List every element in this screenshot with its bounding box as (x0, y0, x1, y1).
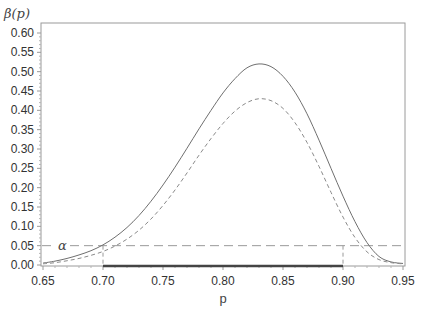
y-tick-label: 0.35 (11, 123, 35, 137)
y-axis: 0.000.050.100.150.200.250.300.350.400.45… (11, 26, 41, 272)
annotations: α (42, 238, 404, 266)
dashed-power-curve (43, 99, 403, 264)
series (43, 64, 403, 264)
y-tick-label: 0.45 (11, 84, 35, 98)
y-tick-label: 0.15 (11, 200, 35, 214)
power-curve-chart: 0.000.050.100.150.200.250.300.350.400.45… (0, 0, 422, 313)
solid-power-curve (43, 64, 403, 264)
y-tick-label: 0.05 (11, 239, 35, 253)
alpha-label: α (58, 238, 67, 253)
y-tick-label: 0.50 (11, 65, 35, 79)
y-tick-label: 0.10 (11, 219, 35, 233)
x-axis-title: p (219, 291, 226, 306)
x-tick-label: 0.80 (211, 274, 235, 288)
x-tick-label: 0.65 (31, 274, 55, 288)
y-axis-title: β(p) (3, 6, 30, 21)
y-tick-label: 0.40 (11, 103, 35, 117)
x-tick-label: 0.90 (331, 274, 355, 288)
x-tick-label: 0.70 (91, 274, 115, 288)
y-tick-label: 0.00 (11, 258, 35, 272)
y-tick-label: 0.60 (11, 26, 35, 40)
y-tick-label: 0.30 (11, 142, 35, 156)
y-tick-label: 0.20 (11, 181, 35, 195)
x-axis: 0.650.700.750.800.850.900.95 (31, 266, 415, 288)
y-tick-label: 0.25 (11, 161, 35, 175)
x-tick-label: 0.75 (151, 274, 175, 288)
x-tick-label: 0.85 (271, 274, 295, 288)
y-tick-label: 0.55 (11, 45, 35, 59)
x-tick-label: 0.95 (391, 274, 415, 288)
